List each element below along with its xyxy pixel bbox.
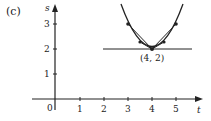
tangent-point — [150, 47, 154, 51]
x-axis-arrow-icon — [195, 96, 203, 102]
secant-line-left — [128, 24, 152, 49]
origin-label: 0 — [47, 103, 53, 113]
x-axis-label: t — [197, 105, 201, 115]
y-tick-label: 2 — [44, 44, 50, 54]
y-axis-label: s — [45, 3, 50, 13]
y-axis-arrow-icon — [52, 4, 58, 12]
secant-point — [126, 22, 130, 26]
parabola-curve — [121, 4, 183, 47]
x-tick-label: 4 — [149, 104, 155, 114]
figure-label: (c) — [6, 5, 21, 18]
x-tick-label: 3 — [125, 104, 131, 114]
secant-point — [138, 40, 141, 43]
x-tick-label: 2 — [101, 104, 107, 114]
y-tick-label: 1 — [44, 69, 50, 79]
secant-line-right — [152, 24, 176, 49]
graph-figure: (c) 0 1 2 3 4 5 t 1 2 3 s (4, 2) — [0, 0, 211, 121]
x-tick-label: 1 — [77, 104, 83, 114]
secant-point — [174, 22, 178, 26]
y-tick-label: 3 — [44, 19, 50, 29]
x-tick-label: 5 — [173, 104, 179, 114]
point-label: (4, 2) — [140, 53, 164, 63]
secant-point — [162, 40, 165, 43]
